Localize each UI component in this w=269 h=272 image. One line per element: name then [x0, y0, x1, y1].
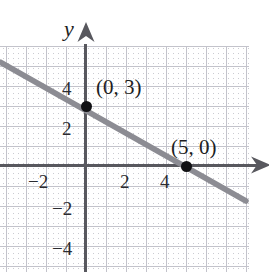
- point-label-0-3: (0, 3): [96, 77, 142, 98]
- y-tick-label-negative-2: −2: [52, 199, 72, 218]
- point-label-5-0: (5, 0): [171, 137, 217, 158]
- y-axis-label: y: [64, 18, 74, 40]
- y-axis-arrowhead-icon: [74, 20, 98, 50]
- y-tick-label-4: 4: [62, 79, 72, 98]
- x-axis-arrowhead-icon: [243, 152, 269, 178]
- y-tick-label-2: 2: [62, 119, 72, 138]
- x-axis: [0, 164, 258, 167]
- x-tick-label-negative-2: −2: [28, 172, 48, 191]
- plotted-point-5-0: [181, 161, 192, 172]
- y-axis: [84, 44, 87, 272]
- x-tick-label-2: 2: [120, 172, 130, 191]
- coordinate-plane-figure: 4 2 −2 −4 −2 2 4 (0, 3) (5, 0) y: [0, 0, 269, 272]
- y-tick-label-negative-4: −4: [52, 239, 72, 258]
- x-tick-label-4: 4: [160, 172, 170, 191]
- plotted-point-0-3: [81, 101, 92, 112]
